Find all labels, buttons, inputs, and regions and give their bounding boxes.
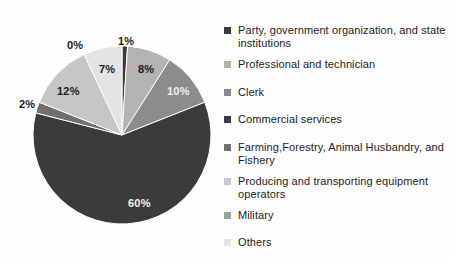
chart-legend: Party, government organization, and stat…: [224, 10, 452, 252]
pie-chart-svg: [0, 0, 222, 258]
legend-item-label: Commercial services: [238, 113, 450, 126]
legend-item-party-government-organization-and-state-institutions[interactable]: Party, government organization, and stat…: [224, 24, 450, 50]
legend-item-label: Farming,Forestry, Animal Husbandry, and …: [238, 141, 450, 167]
pie-slice-group: [33, 46, 211, 224]
legend-swatch-icon: [224, 178, 231, 185]
pie-slice-value-label-farming-forestry-animal-husbandry-and-fishery: 2%: [19, 98, 35, 110]
pie-slice-value-label-commercial-services: 60%: [128, 197, 151, 209]
legend-item-commercial-services[interactable]: Commercial services: [224, 113, 450, 126]
pie-chart-plot-area: 1%8%10%60%2%12%0%7%: [0, 0, 222, 258]
legend-swatch-icon: [224, 89, 231, 96]
legend-item-professional-and-technician[interactable]: Professional and technician: [224, 58, 450, 71]
legend-swatch-icon: [224, 27, 231, 34]
legend-item-label: Military: [238, 209, 450, 222]
legend-item-military[interactable]: Military: [224, 209, 450, 222]
legend-swatch-icon: [224, 239, 231, 246]
legend-item-label: Party, government organization, and stat…: [238, 24, 450, 50]
legend-swatch-icon: [224, 212, 231, 219]
pie-slice-value-label-producing-and-transporting-equipment-operators: 12%: [57, 85, 80, 97]
pie-slice-value-label-clerk: 10%: [167, 85, 190, 97]
pie-slice-value-label-professional-and-technician: 8%: [138, 63, 154, 75]
legend-item-label: Clerk: [238, 86, 450, 99]
pie-slice-value-label-others: 7%: [99, 63, 115, 75]
legend-swatch-icon: [224, 61, 231, 68]
pie-slice-value-label-party-government-organization-and-state-institutions: 1%: [118, 35, 134, 47]
legend-swatch-icon: [224, 144, 231, 151]
legend-item-clerk[interactable]: Clerk: [224, 86, 450, 99]
pie-slice-value-label-military: 0%: [67, 39, 83, 51]
legend-item-others[interactable]: Others: [224, 236, 450, 249]
pie-chart-figure: 1%8%10%60%2%12%0%7% Party, government or…: [0, 0, 455, 258]
legend-item-label: Professional and technician: [238, 58, 450, 71]
legend-swatch-icon: [224, 116, 231, 123]
legend-item-label: Others: [238, 236, 450, 249]
legend-item-producing-and-transporting-equipment-operators[interactable]: Producing and transporting equipment ope…: [224, 175, 450, 201]
legend-item-label: Producing and transporting equipment ope…: [238, 175, 450, 201]
legend-item-farming-forestry-animal-husbandry-and-fishery[interactable]: Farming,Forestry, Animal Husbandry, and …: [224, 141, 450, 167]
